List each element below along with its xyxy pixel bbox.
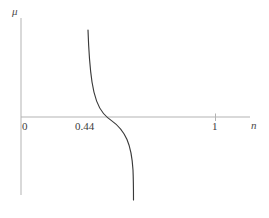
x-tick-label-1: 1: [212, 120, 218, 132]
curve-mu-of-n: [88, 30, 134, 200]
plot-figure: μ n 0 0.44 1: [0, 0, 269, 218]
x-axis-label: n: [251, 119, 257, 131]
x-tick-label-0: 0: [22, 120, 28, 132]
x-tick-label-044: 0.44: [75, 120, 94, 132]
y-axis-label: μ: [12, 5, 18, 17]
plot-canvas: [0, 0, 269, 218]
